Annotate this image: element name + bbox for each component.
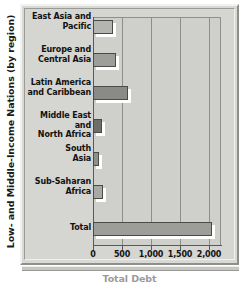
- category-label: Middle East andNorth Africa: [23, 111, 91, 140]
- category-label-line: Total: [23, 223, 91, 233]
- category-label: East Asia andPacific: [23, 12, 91, 31]
- bar: [93, 119, 102, 133]
- bar: [93, 222, 212, 236]
- x-axis-tick-label: 0: [77, 250, 109, 259]
- category-label-line: Central Asia: [23, 55, 91, 65]
- category-label: Europe andCentral Asia: [23, 45, 91, 64]
- gridline: [209, 17, 210, 245]
- category-label-line: East Asia and: [23, 12, 91, 22]
- x-axis-tick-label: 1,500: [164, 250, 196, 259]
- category-label: Sub-SaharanAfrica: [23, 177, 91, 196]
- category-label: Total: [23, 223, 91, 233]
- category-label-line: Sub-Saharan: [23, 177, 91, 187]
- x-axis-tick-label: 1,000: [135, 250, 167, 259]
- x-axis-tick-label: 500: [106, 250, 138, 259]
- plot-background: [93, 17, 221, 245]
- y-axis-title-container: Low- and Middle-Income Nations (by regio…: [0, 0, 20, 268]
- category-label-line: Middle East and: [23, 111, 91, 130]
- category-label: SouthAsia: [23, 144, 91, 163]
- bottom-bevel: [22, 266, 239, 271]
- category-label-line: Latin America: [23, 78, 91, 88]
- chart-figure: Low- and Middle-Income Nations (by regio…: [0, 0, 243, 283]
- gridline: [151, 17, 152, 245]
- x-axis-tick-label: 2,000: [193, 250, 225, 259]
- bar: [93, 53, 116, 67]
- y-axis-title: Low- and Middle-Income Nations (by regio…: [5, 4, 16, 260]
- bar: [93, 185, 103, 199]
- category-label-line: Europe and: [23, 45, 91, 55]
- plot-area: [93, 17, 221, 245]
- category-label-line: South: [23, 144, 91, 154]
- gridline: [180, 17, 181, 245]
- category-label-line: North Africa: [23, 130, 91, 140]
- category-label-line: Asia: [23, 154, 91, 164]
- bar: [93, 152, 99, 166]
- category-label-line: Africa: [23, 187, 91, 197]
- category-label-line: and Caribbean: [23, 88, 91, 98]
- category-label-line: Pacific: [23, 22, 91, 32]
- y-axis-category-labels: East Asia andPacificEurope andCentral As…: [20, 0, 91, 250]
- bar: [93, 86, 128, 100]
- bar: [93, 20, 113, 34]
- x-axis-line: [93, 245, 222, 246]
- gridline: [122, 17, 123, 245]
- x-axis-title: Total Debt: [20, 273, 239, 283]
- category-label: Latin Americaand Caribbean: [23, 78, 91, 97]
